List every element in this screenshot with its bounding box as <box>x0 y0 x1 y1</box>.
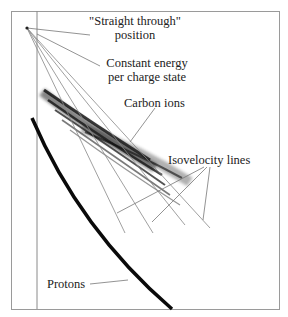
straight-through-point <box>25 26 28 29</box>
label-line: Constant energy <box>92 56 202 70</box>
isovelocity-label: Isovelocity lines <box>168 153 250 167</box>
straight-through-label: "Straight through" position <box>70 14 200 42</box>
carbon-ions-label: Carbon ions <box>124 96 185 110</box>
label-line: per charge state <box>92 70 202 84</box>
label-line: position <box>70 28 200 42</box>
protons-label: Protons <box>47 277 85 291</box>
figure: "Straight through" position Constant ene… <box>0 0 288 317</box>
label-line: "Straight through" <box>70 14 200 28</box>
constant-energy-label: Constant energy per charge state <box>92 56 202 84</box>
